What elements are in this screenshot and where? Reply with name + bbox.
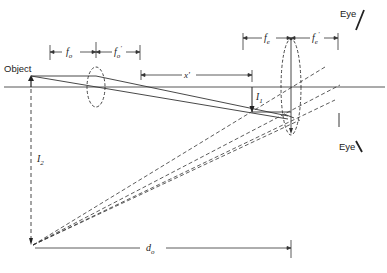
- d-o-dimension: [35, 240, 291, 258]
- eyepiece-lens: [281, 38, 301, 135]
- eyepiece-focal-dimensions: [243, 33, 338, 50]
- eye-position-marks: [339, 10, 364, 152]
- eye-bottom-label: Eye: [339, 141, 355, 152]
- I2-label: I2: [36, 153, 44, 167]
- x-prime-label: x': [183, 70, 191, 80]
- object-rays: [31, 76, 288, 119]
- objective-focal-dimensions: [50, 42, 140, 60]
- virtual-rays: [33, 67, 340, 245]
- f-o-prime-label: fo': [114, 44, 122, 60]
- I1-label: I1: [255, 92, 263, 105]
- d-o-label: do: [146, 242, 155, 256]
- f-e-label: fe: [264, 32, 270, 46]
- eye-top-label: Eye: [340, 8, 356, 19]
- object-label: Object: [4, 63, 32, 74]
- microscope-ray-diagram: Object fo fo' x' I1: [0, 0, 387, 273]
- f-e-prime-label: fe': [312, 30, 320, 46]
- virtual-image-I2: [29, 89, 33, 245]
- x-prime-dimension: [141, 70, 252, 82]
- f-o-label: fo: [66, 46, 73, 60]
